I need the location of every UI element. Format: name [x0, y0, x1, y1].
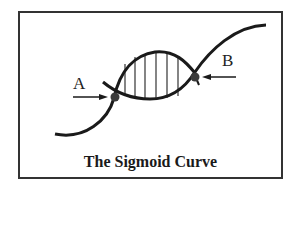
arrow-left-icon	[202, 74, 236, 80]
point-b-dot	[191, 73, 200, 82]
label-point-a: A	[73, 74, 86, 93]
hatched-region	[125, 52, 178, 99]
diagram-caption: The Sigmoid Curve	[18, 153, 283, 171]
arrow-right-icon	[73, 94, 108, 100]
label-point-b: B	[222, 51, 233, 70]
point-a-dot	[111, 93, 120, 102]
